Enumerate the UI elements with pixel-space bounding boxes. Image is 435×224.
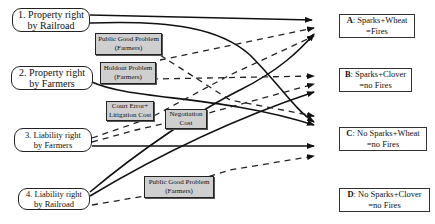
outcome-label-line1: A: Sparks+Wheat <box>340 15 414 26</box>
cost-label-line1: Public Good Problem <box>96 35 161 44</box>
cost-label-line1: Public Good Problem <box>145 178 213 187</box>
outcome-label-line1: D: No Sparks+Clover <box>340 189 429 200</box>
outcome-label-line2: =no Fires <box>340 139 426 150</box>
dashed-pg-to-A <box>160 28 314 60</box>
cost-label-line1: Negotiation <box>166 110 206 119</box>
right-property-farmers: 2. Property right by Farmers <box>11 66 93 90</box>
right-label-line1: 1. Property right <box>13 9 89 20</box>
arrow-1-to-A <box>90 15 312 20</box>
right-label-line2: by Farmers <box>12 78 92 89</box>
right-property-railroad: 1. Property right by Railroad <box>12 8 90 32</box>
cost-label-line2: (Farmers) <box>101 73 155 82</box>
right-label-line1: 2. Property right <box>12 67 92 78</box>
right-label-line2: by Farmers <box>15 140 91 150</box>
outcome-A: A: Sparks+Wheat =Fires <box>339 14 415 38</box>
outcome-text: : Sparks+Wheat <box>353 15 408 25</box>
cost-label-line2: (Farmers) <box>145 187 213 196</box>
cost-court-error: Court Error+ Litigation Cost <box>106 101 154 121</box>
right-liability-railroad: 4. Liability right by Railroad <box>18 188 90 210</box>
cost-label-line1: Court Error+ <box>107 102 153 111</box>
outcome-text: : No Sparks+Clover <box>354 189 422 199</box>
cost-public-good-2: Public Good Problem (Farmers) <box>144 176 214 198</box>
outcome-label-line2: =Fires <box>340 26 414 37</box>
outcome-label-line1: B: Sparks+Clover <box>340 69 411 80</box>
outcome-C: C: No Sparks+Wheat =no Fires <box>339 127 427 151</box>
cost-label-line2: Cost <box>166 119 206 128</box>
outcome-text: : Sparks+Clover <box>351 69 407 79</box>
right-label-line1: 3. Liability right <box>15 130 91 140</box>
dashed-2-to-B <box>152 76 314 79</box>
outcome-B: B: Sparks+Clover =no Fires <box>339 68 412 92</box>
outcome-label-line2: =no Fires <box>340 200 429 211</box>
outcome-label-line1: C: No Sparks+Wheat <box>340 128 426 139</box>
outcome-text: : No Sparks+Wheat <box>353 128 420 138</box>
cost-holdout: Holdout Problem (Farmers) <box>100 62 156 84</box>
outcome-label-line2: =no Fires <box>340 80 411 91</box>
cost-label-line2: (Farmers) <box>96 44 161 53</box>
right-liability-farmers: 3. Liability right by Farmers <box>14 128 92 152</box>
cost-negotiation: Negotiation Cost <box>165 109 207 129</box>
cost-label-line1: Holdout Problem <box>101 64 155 73</box>
cost-public-good-1: Public Good Problem (Farmers) <box>95 33 162 55</box>
outcome-D: D: No Sparks+Clover =no Fires <box>339 188 430 212</box>
cost-label-line2: Litigation Cost <box>107 111 153 120</box>
right-label-line2: by Railroad <box>13 20 89 31</box>
right-label-line2: by Railroad <box>19 199 89 209</box>
right-label-line1: 4. Liability right <box>19 189 89 199</box>
